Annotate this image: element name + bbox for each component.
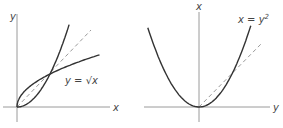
left-panel: y x y = √x — [3, 11, 119, 122]
left-parabola-curve — [17, 25, 69, 107]
right-vertical-axis-label: x — [195, 1, 202, 12]
left-y-axis-label: y — [9, 11, 17, 22]
left-curve-label: y = √x — [64, 75, 98, 86]
right-curve-label: x = y2 — [237, 13, 270, 25]
right-panel: x y x = y2 — [144, 1, 280, 122]
right-identity-line — [199, 43, 262, 107]
right-curve-label-base: x = y — [237, 14, 266, 25]
left-identity-line — [17, 30, 91, 107]
right-horizontal-axis-label: y — [272, 102, 280, 113]
right-curve-label-exponent: 2 — [265, 13, 270, 21]
diagram: y x y = √x x y x = y2 — [0, 0, 283, 128]
left-x-axis-label: x — [112, 102, 119, 113]
